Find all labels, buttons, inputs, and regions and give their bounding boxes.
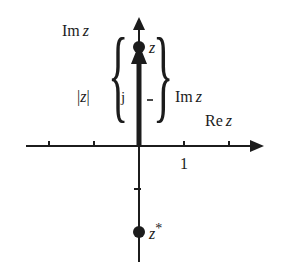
imaginary-axis-label: Imz: [62, 23, 89, 39]
imaginary-part-label-prefix: Im: [175, 88, 193, 105]
imaginary-axis-label-prefix: Im: [62, 22, 80, 39]
argand-diagram-svg: [0, 0, 288, 274]
imaginary-axis-label-variable: z: [83, 22, 89, 39]
point-label-z-conjugate: z*: [149, 222, 162, 242]
imaginary-part-label-variable: z: [196, 88, 202, 105]
imaginary-axis-arrowhead: [133, 17, 145, 30]
real-axis-tick-label-one: 1: [180, 156, 188, 172]
real-axis-arrowhead: [250, 140, 264, 152]
modulus-bar-right: |: [86, 88, 89, 105]
real-axis: [26, 140, 264, 152]
real-axis-label-variable: z: [226, 112, 232, 129]
real-axis-label-prefix: Re: [205, 112, 223, 129]
argand-diagram-figure: { } Imz Rez z z* |z| j Imz 1: [0, 0, 288, 274]
modulus-brace: {: [108, 23, 128, 127]
point-marker-z-conjugate: [133, 226, 145, 238]
imaginary-part-brace: }: [153, 23, 173, 127]
real-axis-label: Rez: [205, 113, 232, 129]
conjugate-star-icon: *: [155, 221, 162, 236]
imaginary-unit-label: j: [121, 90, 125, 105]
point-label-z: z: [149, 40, 155, 56]
imaginary-part-label: Imz: [175, 89, 202, 105]
point-marker-z: [133, 41, 145, 53]
z-vector: [131, 44, 147, 146]
modulus-label: |z|: [77, 89, 90, 105]
